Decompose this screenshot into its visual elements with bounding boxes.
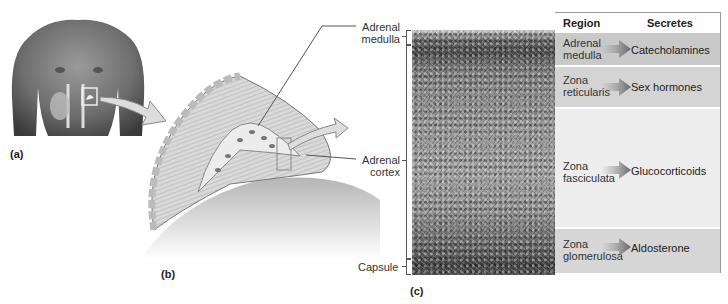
medulla-bracket: [406, 30, 411, 45]
hormone-aldosterone: Aldosterone: [631, 242, 690, 254]
arrow-right-icon: [601, 161, 631, 179]
adrenal-medulla-label: Adrenal medulla: [360, 21, 400, 45]
table-row: Zona fasciculata Glucocorticoids: [555, 109, 720, 227]
cortex-bracket: [406, 45, 411, 259]
table-row: Adrenal medulla Catecholamines: [555, 33, 720, 65]
arrow-right-icon: [601, 40, 631, 58]
capsule-bracket: [406, 259, 411, 275]
table-row: Zona glomerulosa Aldosterone: [555, 229, 720, 273]
hormone-sex-hormones: Sex hormones: [631, 81, 702, 93]
hormone-glucocorticoids: Glucocorticoids: [631, 165, 706, 177]
secretion-table: Region Secretes Adrenal medulla Catechol…: [555, 12, 721, 273]
histology-micrograph: [412, 30, 555, 275]
header-secretes: Secretes: [647, 17, 693, 29]
adrenal-cortex-label: Adrenal cortex: [360, 154, 400, 178]
capsule-label: Capsule: [358, 261, 398, 273]
table-header: Region Secretes: [555, 13, 720, 33]
hormone-catecholamines: Catecholamines: [631, 44, 710, 56]
header-region: Region: [563, 17, 600, 29]
table-row: Zona reticularis Sex hormones: [555, 67, 720, 107]
arrow-right-icon: [601, 78, 631, 96]
panel-label-c: (c): [410, 285, 423, 297]
arrow-right-icon: [601, 238, 631, 256]
